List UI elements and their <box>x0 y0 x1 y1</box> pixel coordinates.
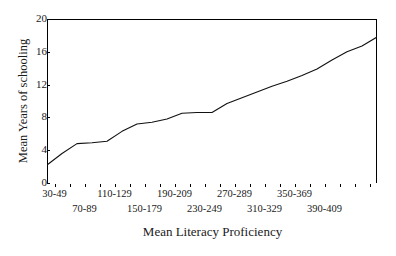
x-tick-label: 310-329 <box>247 203 282 214</box>
x-tick-mark <box>70 184 71 187</box>
x-tick-mark <box>310 184 311 187</box>
y-tick-label-text: 0 <box>20 177 47 188</box>
y-tick-label: 16 <box>20 46 47 57</box>
y-tick-label: 4 <box>20 144 47 155</box>
x-tick-mark <box>325 184 326 187</box>
y-tick-label-text: 16 <box>20 46 47 57</box>
x-axis-title: Mean Literacy Proficiency <box>40 224 385 240</box>
x-tick-mark <box>130 184 131 187</box>
line-chart: Mean Years of schooling 201612840 30-497… <box>0 0 396 256</box>
y-tick-label-text: 8 <box>20 111 47 122</box>
x-tick-mark <box>355 184 356 187</box>
y-tick-mark <box>47 150 50 151</box>
y-tick-label: 8 <box>20 111 47 122</box>
y-tick-label-text: 12 <box>20 79 47 90</box>
x-tick-mark <box>265 184 266 187</box>
x-tick-mark <box>220 184 221 187</box>
x-tick-label: 30-49 <box>42 188 67 199</box>
y-tick-label: 20 <box>20 13 47 24</box>
x-tick-mark <box>160 184 161 187</box>
x-tick-mark <box>115 184 116 187</box>
y-tick-mark <box>47 183 50 184</box>
y-axis-tick-labels: 201612840 <box>20 0 45 256</box>
x-tick-mark <box>190 184 191 187</box>
x-tick-mark <box>370 184 371 187</box>
y-tick-label: 12 <box>20 79 47 90</box>
x-tick-label: 390-409 <box>307 203 342 214</box>
x-tick-label: 70-89 <box>72 203 97 214</box>
x-tick-label: 190-209 <box>157 188 192 199</box>
y-tick-mark <box>47 117 50 118</box>
x-tick-label: 150-179 <box>127 203 162 214</box>
y-tick-label: 0 <box>20 177 47 188</box>
x-tick-mark <box>340 184 341 187</box>
x-tick-mark <box>205 184 206 187</box>
x-tick-mark <box>85 184 86 187</box>
y-tick-mark <box>47 85 50 86</box>
y-tick-label-text: 4 <box>20 144 47 155</box>
x-tick-mark <box>295 184 296 187</box>
x-tick-mark <box>280 184 281 187</box>
x-tick-mark <box>235 184 236 187</box>
x-tick-mark <box>175 184 176 187</box>
y-tick-mark <box>47 52 50 53</box>
x-tick-label: 270-289 <box>217 188 252 199</box>
data-series-line <box>47 37 377 165</box>
x-tick-mark <box>55 184 56 187</box>
x-tick-label: 230-249 <box>187 203 222 214</box>
x-tick-mark <box>250 184 251 187</box>
x-tick-label: 110-129 <box>97 188 132 199</box>
x-tick-mark <box>145 184 146 187</box>
plot-area <box>47 19 377 183</box>
x-tick-label: 350-369 <box>277 188 312 199</box>
x-tick-mark <box>100 184 101 187</box>
y-tick-label-text: 20 <box>20 13 47 24</box>
